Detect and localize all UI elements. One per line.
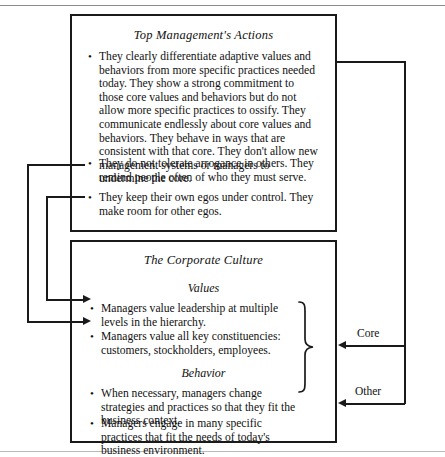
values-bullet-2-text: Managers value all key constituencies: c… (101, 330, 302, 357)
connector-inner-bottom-segment (46, 299, 84, 301)
core-branch-segment (346, 345, 405, 347)
other-branch-segment (346, 403, 405, 405)
top-bullet-3: • They keep their own egos under control… (88, 191, 316, 218)
connector-outer-arrowhead (83, 317, 91, 325)
top-management-actions-box: Top Management's Actions • They clearly … (70, 14, 337, 232)
grouping-brace (296, 300, 322, 395)
bullet-glyph: • (88, 191, 92, 205)
top-box-title: Top Management's Actions (72, 28, 335, 43)
page-rule-top (0, 5, 445, 6)
connector-outer-top-segment (27, 164, 85, 166)
bullet-glyph: • (88, 50, 92, 64)
top-bullet-2: • They do not tolerate arrogance in othe… (88, 157, 316, 184)
bullet-glyph: • (90, 387, 94, 401)
core-label: Core (357, 327, 379, 339)
top-bullet-3-text: They keep their own egos under control. … (99, 191, 316, 218)
connector-outer-vertical-segment (27, 164, 29, 323)
bullet-glyph: • (90, 302, 94, 316)
connector-inner-arrowhead (83, 295, 91, 303)
figure-canvas: Top Management's Actions • They clearly … (0, 0, 445, 457)
values-bullet-2: • Managers value all key constituencies:… (90, 330, 302, 357)
bullet-glyph: • (90, 417, 94, 431)
bottom-box-title: The Corporate Culture (72, 253, 335, 268)
right-trunk-vertical-segment (404, 61, 406, 404)
behavior-bullet-2: • Managers engage in many specific pract… (90, 417, 302, 457)
top-bullet-2-text: They do not tolerate arrogance in others… (99, 157, 316, 184)
other-label: Other (355, 385, 381, 397)
connector-inner-vertical-segment (46, 196, 48, 300)
bullet-glyph: • (90, 330, 94, 344)
bullet-glyph: • (88, 157, 92, 171)
values-bullet-1: • Managers value leadership at multiple … (90, 302, 302, 329)
core-arrowhead (338, 341, 346, 349)
behavior-bullet-2-text: Managers engage in many specific practic… (101, 417, 302, 457)
other-arrowhead (338, 399, 346, 407)
connector-outer-bottom-segment (27, 321, 84, 323)
right-trunk-top-segment (337, 61, 406, 63)
values-heading: Values (72, 281, 335, 296)
values-bullet-1-text: Managers value leadership at multiple le… (101, 302, 302, 329)
connector-inner-top-segment (46, 196, 85, 198)
